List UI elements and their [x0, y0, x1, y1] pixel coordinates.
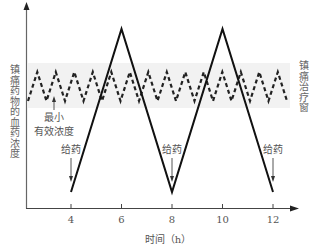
x-ticks	[71, 204, 273, 208]
arrow-down-icon	[271, 176, 275, 182]
x-tick-label: 12	[267, 214, 280, 225]
pk-chart: 4 6 8 10 12 时间（h） 给药 给药 给药 最小 有效浓度	[0, 0, 311, 249]
x-tick-label: 8	[169, 214, 175, 225]
arrow-down-icon	[69, 176, 73, 182]
dose-label: 给药	[162, 143, 182, 155]
x-axis-title: 时间（h）	[145, 233, 191, 245]
x-tick-label: 4	[68, 214, 74, 225]
x-axis-arrow-icon	[290, 206, 299, 212]
arrow-down-icon	[170, 176, 174, 182]
dose-label: 给药	[61, 143, 81, 155]
y-axis-arrow-icon	[24, 2, 30, 10]
x-tick-label: 10	[216, 214, 229, 225]
mec-label-line2: 有效浓度	[34, 125, 74, 137]
y-axis-title: 镇痛药物的血药浓度	[6, 64, 21, 164]
x-tick-label: 6	[118, 214, 124, 225]
dose-label: 给药	[263, 143, 283, 155]
mec-label-line1: 最小	[44, 112, 64, 123]
therapeutic-window-label: 镇痛治疗窗	[295, 60, 310, 120]
